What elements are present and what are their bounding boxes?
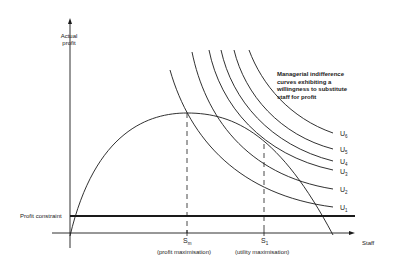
annotation-line: staff for profit bbox=[277, 94, 387, 102]
caption-s1: (utility maximisation) bbox=[235, 249, 289, 256]
profit-constraint-label: Profit constraint bbox=[20, 213, 62, 220]
label-sm: Sm bbox=[183, 237, 191, 246]
y-axis-arrow-icon bbox=[68, 18, 72, 24]
y-axis-label-line2: profit bbox=[49, 40, 89, 47]
indifference-curve-u4 bbox=[221, 50, 333, 161]
label-u3: U3 bbox=[340, 168, 348, 177]
annotation-line: Managerial indifference bbox=[277, 71, 387, 79]
profit-curve bbox=[70, 113, 333, 236]
annotation-line: curves exhibiting a bbox=[277, 79, 387, 87]
caption-sm: (profit maximisation) bbox=[157, 249, 211, 256]
x-axis-arrow-icon bbox=[349, 231, 355, 235]
y-axis-label-line1: Actual bbox=[49, 33, 89, 40]
annotation-text: Managerial indifference curves exhibitin… bbox=[277, 71, 387, 101]
indifference-curve-u3 bbox=[209, 50, 333, 170]
annotation-line: willingness to substitute bbox=[277, 86, 387, 94]
label-u5: U5 bbox=[340, 146, 348, 155]
label-u6: U6 bbox=[340, 130, 348, 139]
x-axis-label: Staff bbox=[362, 240, 374, 247]
y-axis-label: Actual profit bbox=[49, 33, 89, 47]
label-u4: U4 bbox=[340, 158, 348, 167]
label-u2: U2 bbox=[340, 186, 348, 195]
label-s1: S1 bbox=[261, 237, 268, 246]
label-u1: U1 bbox=[340, 204, 348, 213]
